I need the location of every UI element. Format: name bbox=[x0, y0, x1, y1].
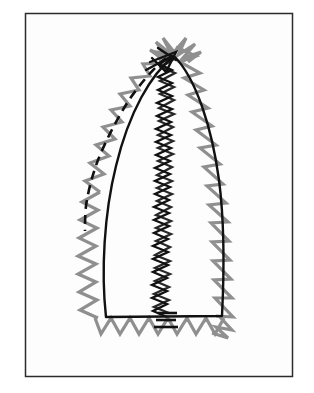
figure-canvas bbox=[0, 0, 314, 393]
figure-container: Scanned line figure: ogive leaf-shaped o… bbox=[0, 0, 314, 393]
